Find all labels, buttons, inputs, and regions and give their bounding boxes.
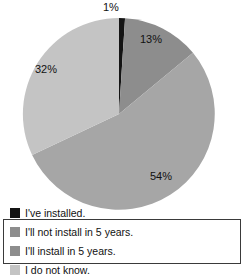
legend-swatch-icon bbox=[10, 246, 20, 256]
legend-label: I'll install in 5 years. bbox=[25, 246, 116, 257]
pie-label-54-percent: 54% bbox=[150, 170, 172, 182]
legend-label: I've installed. bbox=[25, 208, 85, 219]
legend-label: I do not know. bbox=[25, 265, 90, 276]
legend-item-ive-installed[interactable]: I've installed. bbox=[10, 204, 126, 223]
pie-chart-svg bbox=[0, 0, 246, 214]
legend-item-ill-not-install-in-5-years[interactable]: I'll not install in 5 years. bbox=[10, 223, 126, 242]
pie-label-13-percent: 13% bbox=[140, 33, 162, 45]
legend-swatch-icon bbox=[10, 227, 20, 237]
legend-label: I'll not install in 5 years. bbox=[25, 227, 133, 238]
chart-legend: I've installed. I'll not install in 5 ye… bbox=[3, 219, 241, 264]
legend-swatch-icon bbox=[10, 265, 20, 275]
legend-item-ill-install-in-5-years[interactable]: I'll install in 5 years. bbox=[10, 242, 126, 261]
pie-label-32-percent: 32% bbox=[35, 63, 57, 75]
pie-label-1-percent: 1% bbox=[103, 1, 119, 13]
pie-chart: 1% 13% 54% 32% bbox=[0, 0, 246, 214]
legend-swatch-icon bbox=[10, 208, 20, 218]
legend-item-i-do-not-know[interactable]: I do not know. bbox=[10, 261, 126, 279]
